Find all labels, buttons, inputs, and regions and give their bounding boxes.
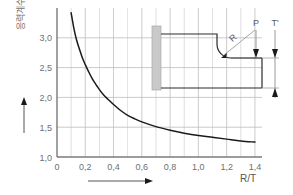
x-axis-caption: R/T — [240, 173, 256, 184]
thickness-top-arrowhead — [272, 49, 278, 58]
x-tick-label: 0,8 — [164, 162, 177, 172]
y-tick-label: 2,0 — [39, 93, 52, 103]
y-axis-caption: 응력계수 — [15, 0, 26, 30]
right-arrow-icon — [88, 178, 153, 184]
fixed-wall-block — [152, 26, 161, 90]
thickness-label: T' — [271, 18, 278, 28]
load-arrowhead — [253, 49, 259, 58]
x-tick-label: 0,6 — [136, 162, 149, 172]
x-tick-labels: 00,20,40,60,81,01,21,4 — [54, 162, 261, 172]
thickness-bottom-arrowhead — [272, 88, 278, 97]
figure-root: 00,20,40,60,81,01,21,4 1,01,52,02,53,0 응… — [0, 0, 293, 195]
x-tick-label: 0 — [54, 162, 59, 172]
vertical-gridlines — [71, 8, 255, 157]
x-tick-label: 1,2 — [220, 162, 233, 172]
radius-leader-arrowhead — [221, 53, 227, 58]
figure-canvas: 00,20,40,60,81,01,21,4 1,01,52,02,53,0 응… — [0, 0, 293, 195]
x-tick-label: 0,2 — [79, 162, 92, 172]
cantilever-beam-fillet-diagram: R P T' — [152, 18, 279, 98]
stress-coefficient-curve — [71, 13, 255, 142]
y-tick-label: 3,0 — [39, 33, 52, 43]
beam-top-edge — [161, 34, 217, 44]
y-tick-label: 1,5 — [39, 123, 52, 133]
x-tick-label: 1,0 — [192, 162, 205, 172]
y-tick-label: 1,0 — [39, 153, 52, 163]
load-label: P — [253, 18, 259, 28]
y-tick-label: 2,5 — [39, 63, 52, 73]
y-tick-labels: 1,01,52,02,53,0 — [39, 33, 52, 162]
up-arrow-icon — [21, 97, 27, 133]
x-tick-label: 1,4 — [249, 162, 262, 172]
x-tick-label: 0,4 — [107, 162, 120, 172]
